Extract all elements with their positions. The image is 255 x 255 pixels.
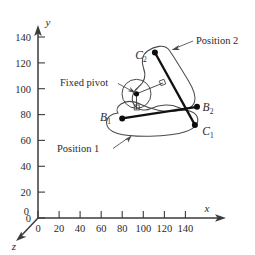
callout-leader-position2: [176, 41, 193, 48]
y-tick-label-100: 100: [15, 84, 31, 95]
joint-dot-c2: [152, 50, 158, 56]
joint-dot-b2: [194, 104, 200, 110]
y-tick-label-120: 120: [15, 58, 31, 69]
link-c2-c1: [155, 53, 195, 125]
x-tick-label-20: 20: [54, 223, 65, 234]
callout-label-position2: Position 2: [196, 35, 238, 46]
x-tick-label-80: 80: [117, 223, 128, 234]
callout-label-fixed-pivot: Fixed pivot: [60, 77, 108, 88]
y-tick-label-20: 20: [21, 187, 32, 198]
point-label-c2: C2: [135, 49, 147, 64]
z-origin-label: 0: [24, 206, 29, 217]
x-tick-label-140: 140: [178, 223, 194, 234]
joint-dot-b1: [119, 115, 125, 121]
point-label-b1: B1: [100, 111, 111, 126]
y-axis-label: y: [45, 16, 51, 28]
x-tick-label-0: 0: [35, 223, 40, 234]
y-tick-label-140: 140: [15, 32, 31, 43]
joint-dot-c1: [192, 122, 198, 128]
x-axis-tick-labels: 0 20 40 60 80 100 120 140: [35, 223, 193, 234]
callout-arrowhead-fixed-pivot: [128, 87, 137, 93]
y-tick-label-40: 40: [21, 161, 32, 172]
y-axis-tick-labels: 0 20 40 60 80 100 120 140: [15, 32, 31, 224]
y-tick-label-80: 80: [21, 109, 32, 120]
z-axis-label: z: [11, 240, 17, 252]
x-tick-label-100: 100: [135, 223, 151, 234]
callout-label-position1: Position 1: [57, 143, 99, 154]
x-tick-label-120: 120: [157, 223, 173, 234]
x-tick-label-60: 60: [96, 223, 107, 234]
callout-arrowhead-position1: [125, 135, 133, 143]
point-label-b2: B2: [203, 101, 214, 116]
y-axis-ticks: [38, 37, 45, 218]
x-tick-label-40: 40: [75, 223, 86, 234]
callout-arrowhead-position2: [172, 45, 181, 50]
point-label-c1: C1: [202, 125, 214, 140]
callout-position1: Position 1: [57, 135, 132, 154]
perpendicular-marker-upper: [159, 79, 166, 86]
callout-position2: Position 2: [172, 35, 239, 50]
y-tick-label-60: 60: [21, 135, 32, 146]
figure-canvas: 0 20 40 60 80 100 120 140 0 20 40 60 80 …: [0, 0, 255, 255]
x-axis-label: x: [204, 202, 210, 214]
x-axis-ticks: [38, 211, 185, 218]
